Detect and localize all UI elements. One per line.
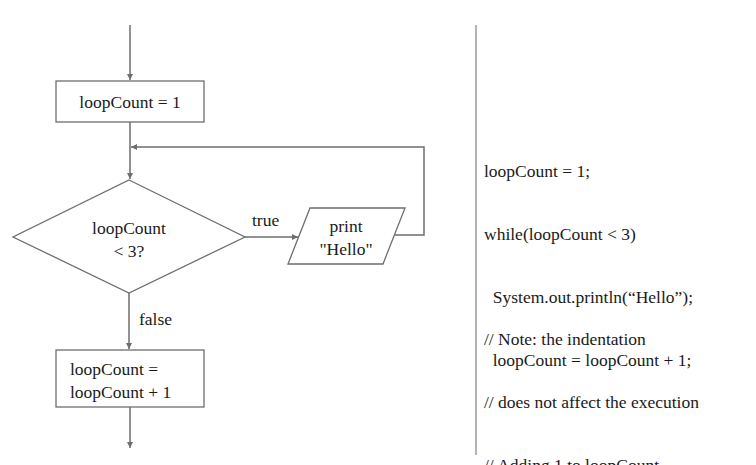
print-label-line1: print <box>329 216 362 236</box>
decision-label-line2: < 3? <box>114 241 145 261</box>
true-label: true <box>252 210 279 230</box>
decision-node: loopCount < 3? <box>13 180 245 293</box>
init-node: loopCount = 1 <box>56 81 204 122</box>
decision-label-line1: loopCount <box>92 218 166 238</box>
comment-line: // does not affect the execution <box>484 392 699 413</box>
increment-label-line1: loopCount = <box>70 359 158 379</box>
increment-node: loopCount = loopCount + 1 <box>56 350 204 407</box>
comment-line: // Note: the indentation <box>484 329 699 350</box>
increment-label-line2: loopCount + 1 <box>70 382 171 402</box>
code-line: loopCount = 1; <box>484 161 693 182</box>
comment-line: // Adding 1 to loopCount <box>484 455 699 465</box>
print-label-line2: "Hello" <box>319 239 372 259</box>
init-label: loopCount = 1 <box>79 92 180 112</box>
code-line: while(loopCount < 3) <box>484 224 693 245</box>
false-label: false <box>139 309 172 329</box>
print-node: print "Hello" <box>288 208 405 264</box>
comment-block: // Note: the indentation // does not aff… <box>484 287 699 465</box>
